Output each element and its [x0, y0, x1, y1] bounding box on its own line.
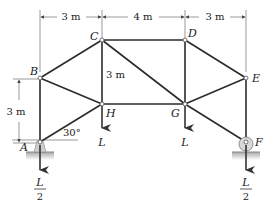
dim-top-right: 3 m [205, 11, 225, 22]
truss-diagram: 3 m 4 m 3 m 3 m 30° 3 m [0, 0, 272, 209]
load-label-A-numerator: L [35, 176, 43, 189]
label-F: F [254, 136, 263, 149]
member-BC [40, 40, 102, 78]
joint-A [38, 140, 42, 144]
dimension-left: 3 m [6, 79, 38, 143]
member-DE [185, 40, 246, 78]
joint-H [100, 102, 104, 106]
joint-D [183, 38, 187, 42]
joint-C [100, 38, 104, 42]
dimension-top: 3 m 4 m 3 m [41, 11, 245, 22]
joint-B [38, 76, 42, 80]
node-labels: B C D E F A H G [19, 27, 263, 154]
load-label-A-denominator: 2 [37, 191, 43, 202]
dim-top-left: 3 m [61, 11, 81, 22]
label-A: A [19, 141, 28, 154]
label-C: C [90, 30, 99, 43]
load-label-F-numerator: L [241, 176, 249, 189]
member-GF [185, 104, 246, 142]
angle-label: 30° [63, 127, 81, 138]
label-D: D [187, 27, 197, 40]
load-label-H: L [97, 136, 105, 149]
joint-G [183, 102, 187, 106]
dim-left-vertical: 3 m [6, 106, 26, 117]
member-BH [40, 78, 102, 104]
joint-E [244, 76, 248, 80]
load-label-G: L [180, 136, 188, 149]
label-B: B [29, 65, 38, 78]
load-label-F-denominator: 2 [243, 191, 249, 202]
label-G: G [171, 107, 180, 120]
label-E: E [251, 72, 260, 85]
dim-CH: 3 m [106, 69, 126, 80]
member-GE [185, 78, 246, 104]
loads: L L L 2 L 2 [34, 106, 252, 202]
label-H: H [105, 107, 116, 120]
dim-top-middle: 4 m [133, 11, 153, 22]
joint-F [244, 140, 248, 144]
